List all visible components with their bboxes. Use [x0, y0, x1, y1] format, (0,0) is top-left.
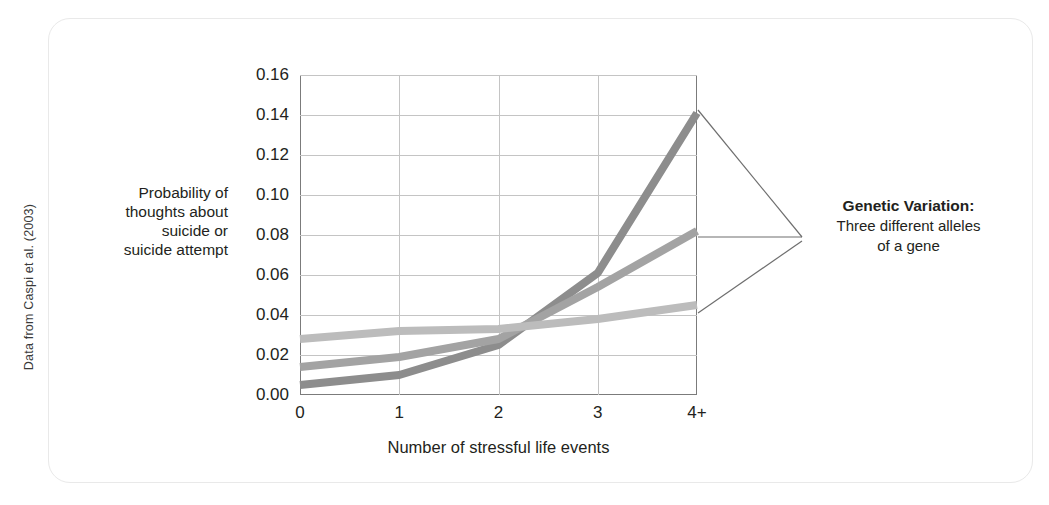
callout-line-2: of a gene — [806, 236, 1011, 256]
series-lines — [300, 75, 697, 395]
series-line-allele-light — [300, 305, 697, 339]
y-axis-title-line-4: suicide attempt — [68, 240, 228, 259]
callout-annotation: Genetic Variation: Three different allel… — [806, 196, 1011, 256]
y-axis-title-line-1: Probability of — [68, 183, 228, 202]
x-tick-label: 0 — [295, 403, 304, 423]
callout-leader-lines — [690, 95, 820, 335]
x-axis-title: Number of stressful life events — [300, 438, 697, 457]
y-axis-title: Probability of thoughts about suicide or… — [68, 183, 228, 259]
y-axis-title-line-3: suicide or — [68, 221, 228, 240]
x-tick-label: 3 — [593, 403, 602, 423]
x-tick-label: 2 — [494, 403, 503, 423]
source-credit: Data from Caspi et al. (2003) — [22, 182, 36, 392]
figure-root: Data from Caspi et al. (2003) Probabilit… — [0, 0, 1049, 505]
plot-area: 0.000.020.040.060.080.100.120.140.16 012… — [300, 75, 697, 395]
y-axis-title-line-2: thoughts about — [68, 202, 228, 221]
y-tick-label: 0.02 — [256, 345, 289, 365]
y-tick-label: 0.12 — [256, 145, 289, 165]
callout-title: Genetic Variation: — [806, 196, 1011, 216]
y-tick-label: 0.08 — [256, 225, 289, 245]
y-tick-label: 0.14 — [256, 105, 289, 125]
callout-line-1: Three different alleles — [806, 216, 1011, 236]
x-tick-label: 1 — [395, 403, 404, 423]
x-tick-label: 4+ — [687, 403, 706, 423]
y-tick-label: 0.00 — [256, 385, 289, 405]
y-tick-label: 0.16 — [256, 65, 289, 85]
y-tick-label: 0.10 — [256, 185, 289, 205]
y-tick-label: 0.04 — [256, 305, 289, 325]
y-tick-label: 0.06 — [256, 265, 289, 285]
series-line-allele-dark — [300, 113, 697, 385]
